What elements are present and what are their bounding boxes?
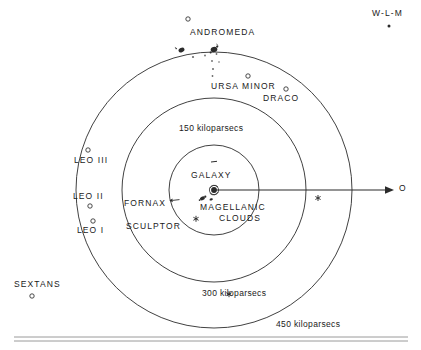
label-andromeda: ANDROMEDA xyxy=(190,28,255,37)
faint-companion-markers xyxy=(192,53,220,77)
magellanic-clouds-marker xyxy=(199,196,213,201)
label-magellanic-clouds-line1: MAGELLANIC xyxy=(200,203,266,212)
draco-marker xyxy=(284,87,288,91)
dark-galaxy-marker-left xyxy=(175,47,186,54)
label-ring-450: 450 kiloparsecs xyxy=(276,320,340,329)
label-leo-i: LEO I xyxy=(77,226,104,235)
label-sculptor: SCULPTOR xyxy=(126,222,181,231)
label-draco: DRACO xyxy=(263,94,299,103)
leo-iii-marker xyxy=(86,148,90,152)
ursa-minor-marker xyxy=(246,74,250,78)
leo-i-marker xyxy=(91,219,95,223)
asterisk-marker-right xyxy=(315,195,320,201)
direction-axis xyxy=(214,186,394,194)
sextans-marker xyxy=(30,294,34,298)
label-leo-iii: LEO III xyxy=(74,156,108,165)
leo-ii-marker xyxy=(88,204,92,208)
axis-arrowhead-icon xyxy=(385,186,394,194)
label-ursa-minor: URSA MINOR xyxy=(211,82,276,91)
sculptor-marker xyxy=(193,216,198,222)
label-galaxy: GALAXY xyxy=(191,171,232,180)
local-group-diagram: ANDROMEDA W-L-M URSA MINOR DRACO LEO III… xyxy=(0,0,421,350)
label-leo-ii: LEO II xyxy=(73,192,104,201)
label-sextans: SEXTANS xyxy=(14,280,61,289)
andromeda-marker xyxy=(186,17,190,21)
wlm-marker xyxy=(388,25,391,28)
label-ring-150: 150 kiloparsecs xyxy=(179,124,243,133)
andromeda-group-markers xyxy=(175,44,220,77)
label-fornax: FORNAX xyxy=(124,199,166,208)
label-ring-300: 300 kiloparsecs xyxy=(202,289,266,298)
label-wlm: W-L-M xyxy=(372,9,403,18)
unlabeled-dash-marker xyxy=(211,161,217,162)
label-axis-origin: O xyxy=(399,184,407,193)
label-magellanic-clouds-line2: CLOUDS xyxy=(219,214,261,223)
open-circle-markers xyxy=(30,17,288,298)
bottom-rule xyxy=(14,337,408,341)
